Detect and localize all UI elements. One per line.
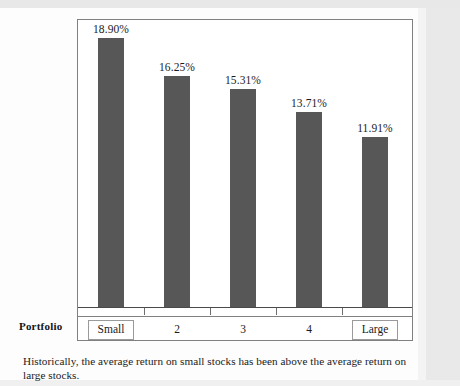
bar-2[interactable]	[164, 76, 190, 307]
category-label-large[interactable]: Large	[352, 320, 399, 340]
bar-value-label: 18.90%	[78, 23, 144, 36]
category-cell: Small	[78, 317, 144, 342]
bar-large[interactable]	[362, 137, 388, 307]
scan-top-edge-band	[0, 0, 460, 8]
axis-row-title: Portfolio	[19, 320, 62, 332]
plot-area: 18.90% 16.25% 15.31% 13.71% 11.91%	[78, 20, 412, 307]
axis-tick	[276, 308, 277, 315]
bar-group: 18.90%	[78, 20, 144, 307]
scan-edge-gradient	[418, 0, 426, 386]
category-cell: 3	[210, 317, 276, 342]
bar-group: 16.25%	[144, 20, 210, 307]
axis-tick	[210, 308, 211, 315]
bar-small[interactable]	[98, 38, 124, 307]
category-cell: Large	[342, 317, 408, 342]
category-label-4: 4	[306, 323, 312, 336]
x-axis-line	[78, 307, 412, 308]
figure-caption: Historically, the average return on smal…	[23, 354, 415, 382]
bar-group: 13.71%	[276, 20, 342, 307]
scan-right-edge-band	[426, 0, 460, 386]
bar-3[interactable]	[230, 89, 256, 307]
category-label-2: 2	[174, 323, 180, 336]
category-axis-row: Small 2 3 4 Large	[78, 316, 412, 342]
category-cell: 4	[276, 317, 342, 342]
bar-group: 11.91%	[342, 20, 408, 307]
bar-value-label: 13.71%	[276, 97, 342, 110]
bar-chart-figure: 18.90% 16.25% 15.31% 13.71% 11.91% Small…	[77, 19, 413, 341]
bar-group: 15.31%	[210, 20, 276, 307]
axis-tick	[144, 308, 145, 315]
axis-tick	[342, 308, 343, 315]
category-cell: 2	[144, 317, 210, 342]
bar-value-label: 11.91%	[342, 122, 408, 135]
bar-value-label: 15.31%	[210, 74, 276, 87]
category-label-3: 3	[240, 323, 246, 336]
category-label-small[interactable]: Small	[88, 320, 135, 340]
bar-value-label: 16.25%	[144, 61, 210, 74]
bar-4[interactable]	[296, 112, 322, 307]
